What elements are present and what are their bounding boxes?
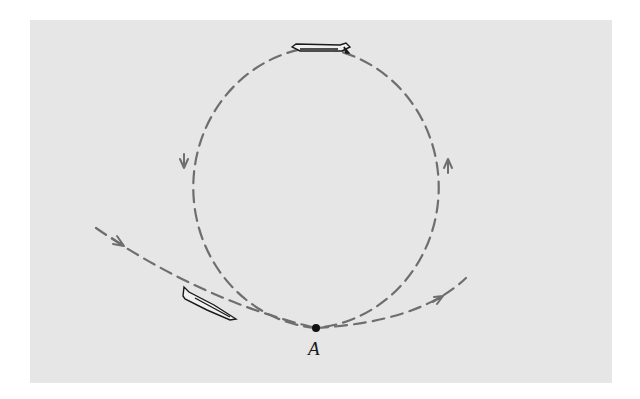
airplane-entry-icon [183, 287, 236, 320]
arrow-right-side-icon [444, 159, 452, 173]
arrow-left-side-icon [180, 154, 188, 168]
point-A-marker [312, 324, 320, 332]
loop-diagram [0, 0, 640, 399]
arrow-exit-icon [433, 296, 443, 304]
airplane-top-icon [292, 43, 350, 53]
entry-path [96, 228, 316, 328]
loop-path [193, 47, 438, 328]
point-A-label: A [308, 338, 320, 360]
exit-path [316, 278, 466, 328]
